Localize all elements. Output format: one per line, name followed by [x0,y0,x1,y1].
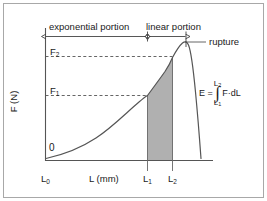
y-tick-label-f2: F2 [50,47,59,57]
linear-portion-label: linear portion [146,22,201,32]
y-axis-label: F (N) [8,80,19,124]
shaded-energy-area [148,58,173,161]
equation-integrand: F·dL [222,89,241,98]
force-extension-curve [46,42,201,159]
y-tick-label-f1: F1 [50,86,59,96]
equation-lhs: E = [199,89,213,98]
exponential-portion-label: exponential portion [49,22,129,32]
integral-with-limits: L2 ∫ L1 [214,80,221,107]
energy-integral-equation: E = L2 ∫ L1 F·dL [199,80,241,107]
rupture-label: rupture [209,37,239,47]
origin-label: 0 [49,143,55,153]
x-axis-label: L (mm) [89,174,119,184]
x-tick-label-l2: L2 [168,174,177,184]
x-tick-label-l0: L0 [41,174,50,184]
x-tick-label-l1: L1 [143,174,152,184]
integral-lower-limit: L1 [214,99,221,107]
figure-root: F (N) F2 F1 0 L0 L (mm) L1 L2 exponentia… [0,0,267,201]
